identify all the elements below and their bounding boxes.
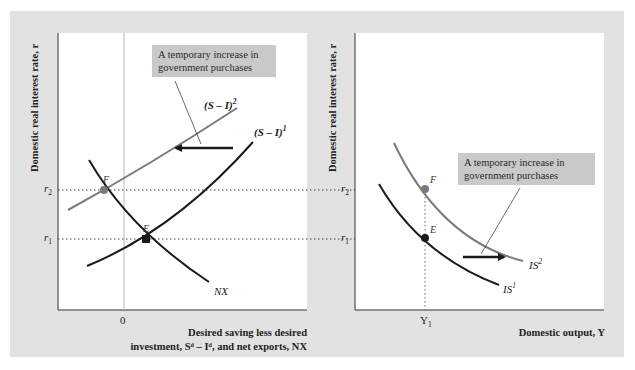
right-curve-is1-label: IS1 — [503, 281, 516, 295]
right-y-tick-r2: r2 — [341, 182, 349, 197]
left-y-tick-r1: r1 — [44, 231, 52, 246]
right-point-f-marker — [421, 185, 429, 193]
left-callout-pointer — [175, 81, 201, 144]
left-curve-si1-text: (S – I) — [254, 126, 283, 138]
right-callout: A temporary increase in government purch… — [458, 153, 595, 185]
left-callout: A temporary increase in government purch… — [152, 45, 276, 77]
left-y-axis-label: Domestic real interest rate, r — [29, 44, 40, 172]
right-curve-is2-label: IS2 — [529, 257, 542, 271]
left-reference-lines — [58, 190, 355, 239]
curve-is1 — [379, 184, 499, 285]
right-curve-is2-sup: 2 — [538, 257, 542, 266]
left-x-axis-label-line2: investment, Sᵈ – Iᵈ, and net exports, NX — [110, 340, 307, 354]
curve-si1 — [87, 142, 253, 266]
left-y-tick-r2: r2 — [44, 182, 52, 197]
left-y-tick-r2-sub: 2 — [48, 188, 52, 197]
left-point-f-marker — [100, 186, 108, 194]
right-y-axis-label: Domestic real interest rate, r — [327, 44, 338, 172]
left-point-e-label: E — [143, 223, 149, 234]
left-x-axis-label: Desired saving less desired investment, … — [110, 326, 307, 354]
right-y-tick-r1: r1 — [341, 231, 349, 246]
curve-si2 — [68, 108, 237, 210]
left-curve-si1-label: (S – I)1 — [254, 124, 286, 138]
left-curve-si2-label: (S – I)2 — [204, 97, 236, 111]
left-curve-nx-label: NX — [214, 285, 228, 297]
left-y-tick-r1-sub: 1 — [48, 237, 52, 246]
left-curve-si2-sup: 2 — [233, 97, 237, 106]
right-point-f-label: F — [430, 174, 436, 185]
left-curve-si2-text: (S – I) — [204, 99, 233, 111]
right-curve-is2-text: IS — [529, 259, 538, 271]
left-point-e-marker — [142, 235, 150, 243]
left-curve-si1-sup: 1 — [283, 124, 287, 133]
left-x-axis-label-line1: Desired saving less desired — [110, 326, 307, 340]
right-callout-pointer — [481, 188, 520, 254]
right-x-axis-label: Domestic output, Y — [430, 326, 605, 340]
left-point-f-label: F — [103, 174, 109, 185]
left-x-tick-zero: 0 — [120, 314, 126, 326]
right-point-e-label: E — [430, 224, 436, 235]
diagram-graphics — [0, 0, 635, 370]
right-y-tick-r1-sub: 1 — [345, 237, 349, 246]
right-x-tick-y1-text: Y — [420, 314, 428, 326]
right-point-e-marker — [421, 234, 429, 242]
right-curve-is1-sup: 1 — [512, 281, 516, 290]
right-y-tick-r2-sub: 2 — [345, 188, 349, 197]
right-curve-is1-text: IS — [503, 283, 512, 295]
